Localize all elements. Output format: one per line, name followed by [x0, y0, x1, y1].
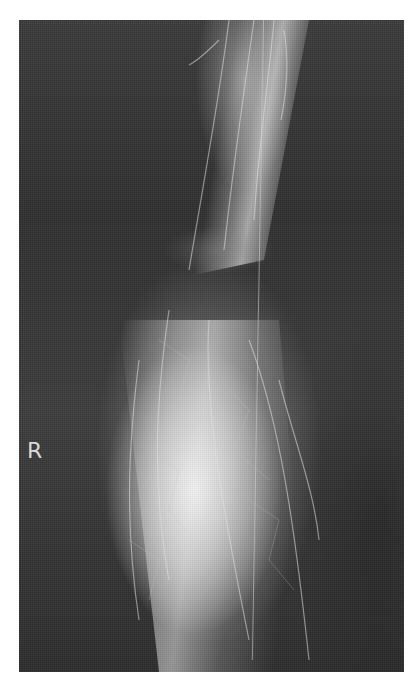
film-grain: [19, 20, 404, 672]
laterality-marker: R: [27, 438, 42, 463]
xray-image: R: [19, 20, 404, 672]
